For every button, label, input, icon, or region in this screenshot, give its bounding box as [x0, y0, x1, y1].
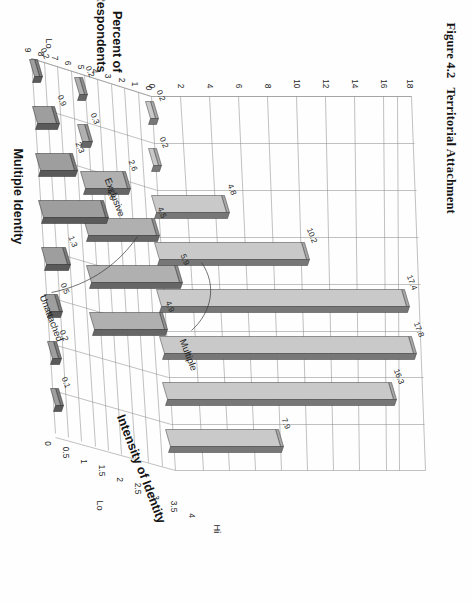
value-axis-title-line2: Respondents	[93, 0, 107, 72]
depth-tick: 5	[75, 64, 85, 69]
depth-axis-title: Multiple Identity	[10, 148, 24, 244]
depth-tick: 2	[116, 77, 126, 82]
value-axis-title-line1: Percent of	[109, 10, 123, 72]
bar-label: 16.3	[391, 367, 405, 385]
value-tick: 8	[262, 83, 272, 88]
bar-multiple-1	[148, 148, 161, 171]
value-tick: 10	[291, 79, 301, 89]
value-axis-ticks: 0 2 4 6 8 10 12 14 16 18	[146, 79, 414, 89]
bar-label: 10.2	[304, 226, 318, 244]
bar-exclusive-3	[38, 200, 108, 223]
category-axis-hi-marker: Hi	[211, 524, 221, 533]
bar-label: 17.8	[411, 320, 425, 338]
bar-multiple-0	[145, 101, 158, 124]
category-axis-title: Intensity of Identity	[114, 412, 168, 525]
depth-tick: 0	[143, 85, 153, 90]
bar-multiple-7	[165, 429, 283, 452]
bar-label: 0.3	[88, 111, 101, 125]
category-tick: 1.5	[96, 464, 106, 476]
bar-label: 7.9	[279, 416, 292, 430]
chart-plot-area: 0 2 4 6 8 10 12 14 16 18 Percent of Resp…	[0, 0, 437, 603]
value-tick: 16	[378, 79, 388, 89]
depth-tick: 3	[102, 73, 112, 78]
series-multiple-bars	[145, 101, 416, 452]
bar-label: 0.1	[59, 375, 72, 389]
figure-title: Territorial Attachment	[443, 87, 457, 213]
depth-tick: 1	[129, 81, 139, 86]
depth-tick: 6	[62, 60, 72, 65]
bar-label: 0.2	[157, 135, 170, 149]
bar-label: 4.8	[225, 182, 238, 196]
category-tick: 4	[186, 513, 196, 518]
figure-caption: Figure 4.2Territorial Attachment	[442, 22, 457, 213]
bar-multiple-4	[156, 289, 409, 312]
bar-exclusive-2	[35, 153, 77, 176]
chart-svg: 0 2 4 6 8 10 12 14 16 18 Percent of Resp…	[0, 0, 437, 603]
category-tick: 0	[42, 441, 52, 446]
bar-label: 17.4	[404, 273, 418, 291]
bar-exclusive-6	[47, 341, 61, 364]
value-tick: 12	[320, 79, 330, 89]
value-tick: 14	[349, 79, 359, 89]
bar-multiple-3	[154, 242, 309, 265]
category-tick: 1	[78, 459, 88, 464]
bar-exclusive-7	[50, 388, 63, 411]
depth-tick: 9	[22, 47, 32, 52]
category-tick: 0.5	[60, 446, 70, 458]
bar-unattached-4	[86, 265, 182, 288]
bar-label: 0.2	[154, 88, 167, 102]
value-tick: 18	[404, 79, 414, 89]
value-tick: 2	[175, 83, 185, 88]
bar-multiple-6	[162, 382, 396, 405]
category-axis-lo-marker: Lo	[94, 500, 104, 510]
value-tick: 6	[233, 83, 243, 88]
bar-label: 2.6	[126, 158, 139, 172]
bar-label: 1.3	[66, 234, 79, 248]
value-tick: 4	[204, 83, 214, 88]
bar-label: 0.9	[55, 93, 68, 107]
figure-page: Figure 4.2Territorial Attachment	[0, 0, 471, 603]
bar-exclusive-0	[29, 59, 42, 82]
value-axis-title: Percent of Respondents	[93, 0, 123, 73]
bar-unattached-5	[89, 312, 167, 335]
figure-number: Figure 4.2	[443, 22, 457, 78]
bar-label: 0.5	[58, 281, 71, 295]
bar-exclusive-4	[41, 247, 70, 270]
bar-multiple-5	[159, 336, 416, 359]
category-tick: 3.5	[168, 500, 178, 512]
category-tick: 2	[114, 477, 124, 482]
